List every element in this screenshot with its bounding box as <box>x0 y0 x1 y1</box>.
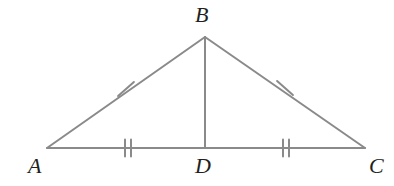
segment-ab <box>47 37 205 148</box>
vertex-label-c: C <box>369 155 384 177</box>
vertex-label-b: B <box>195 4 208 26</box>
segment-bc <box>205 37 365 148</box>
vertex-label-a: A <box>28 155 41 177</box>
geometry-figure: A B C D <box>0 0 394 186</box>
vertex-label-d: D <box>195 155 211 177</box>
